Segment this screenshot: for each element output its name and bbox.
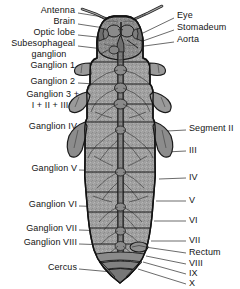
label-ganglion-3: Ganglion 3 +: [27, 89, 80, 100]
label-ganglion-VI: Ganglion VI: [29, 199, 77, 210]
label-subesophageal-ganglion: ganglion: [20, 49, 78, 60]
thoracic-ganglion-2: [115, 83, 127, 93]
thoracic-ganglion-3: [114, 99, 127, 109]
abdominal-ganglion-IV: [116, 126, 126, 134]
label-antenna: Antenna: [41, 5, 75, 16]
label-subesophageal: Subesophageal: [11, 38, 75, 49]
label-ganglion-1: Ganglion 1: [30, 60, 75, 71]
anatomical-figure: Antenna Brain Optic lobe Subesophageal g…: [0, 0, 240, 289]
label-eye: Eye: [177, 10, 193, 21]
abdominal-ganglion-VI: [116, 203, 126, 211]
label-segment-VI: VI: [189, 215, 198, 226]
abdominal-ganglion-VII: [116, 227, 126, 235]
label-stomadeum: Stomadeum: [177, 22, 226, 33]
label-brain: Brain: [53, 16, 75, 27]
label-cercus: Cercus: [48, 262, 77, 273]
label-rectum: Rectum: [189, 247, 221, 258]
label-ganglion-2: Ganglion 2: [30, 76, 75, 87]
label-optic-lobe: Optic lobe: [33, 27, 75, 38]
thoracic-ganglion-1: [115, 65, 127, 75]
leg-base-left-1: [75, 63, 92, 76]
label-segment-VII: VII: [189, 235, 200, 246]
label-roman-sum: I + II + III: [22, 100, 78, 111]
label-ganglion-IV: Ganglion IV: [29, 121, 77, 132]
leg-base-right-3: [153, 122, 173, 157]
label-ganglion-VII: Ganglion VII: [26, 223, 77, 234]
abdominal-ganglion-V: [116, 168, 126, 176]
label-ganglion-V: Ganglion V: [31, 163, 77, 174]
label-segment-V: V: [189, 195, 195, 206]
abdominal-ganglion-VIII: [115, 242, 126, 251]
label-segment-II: Segment II: [189, 123, 234, 134]
label-ganglion-VIII: Ganglion VIII: [24, 237, 77, 248]
label-segment-IV: IV: [189, 172, 198, 183]
label-aorta: Aorta: [177, 34, 199, 45]
label-segment-III: III: [189, 145, 197, 156]
label-segment-X: X: [189, 278, 195, 289]
leg-base-right-1: [149, 63, 166, 76]
